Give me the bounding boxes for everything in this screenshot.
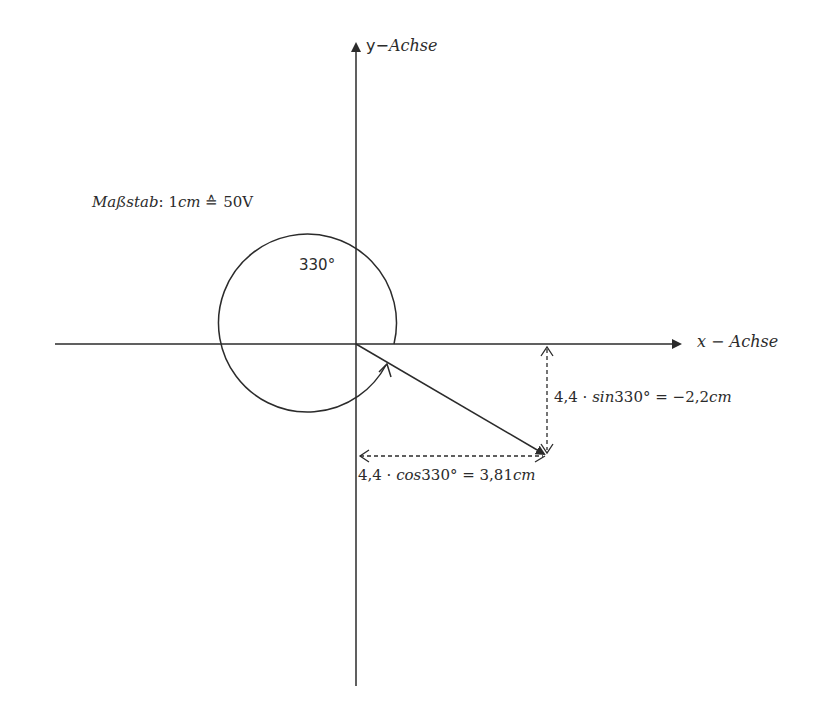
- sin-factor: 4,4 ·: [554, 388, 592, 406]
- cos-func: cos: [396, 466, 421, 484]
- x-axis-label: x − Achse: [697, 332, 778, 351]
- sin-func: sin: [592, 388, 614, 406]
- cos-arg: 330° = 3,81: [421, 466, 513, 484]
- y-axis-word: Achse: [389, 36, 438, 55]
- scale-colon: :: [159, 193, 169, 211]
- scale-unit: cm: [178, 193, 201, 211]
- sin-arg: 330° = −2,2: [614, 388, 709, 406]
- scale-label: Maßstab: 1cm ≙ 50V: [92, 193, 253, 211]
- scale-prefix: Maßstab: [92, 193, 159, 211]
- y-axis-dash: −: [375, 36, 388, 55]
- cos-component-label: 4,4 · cos330° = 3,81cm: [358, 466, 536, 484]
- cos-arrowhead-right-icon: [535, 456, 545, 462]
- x-axis-var: x: [697, 332, 706, 351]
- sin-component-label: 4,4 · sin330° = −2,2cm: [554, 388, 732, 406]
- x-axis-word: Achse: [730, 332, 779, 351]
- phasor-diagram: [0, 0, 823, 719]
- angle-label: 330°: [299, 256, 335, 274]
- scale-unit-value: 1: [168, 193, 178, 211]
- x-axis-dash: −: [706, 332, 730, 351]
- sin-unit: cm: [709, 388, 732, 406]
- phasor-vector: [356, 344, 544, 454]
- angle-arc-arrowhead-icon: [379, 364, 391, 377]
- cos-unit: cm: [513, 466, 536, 484]
- scale-value: 50V: [223, 193, 253, 211]
- cos-factor: 4,4 ·: [358, 466, 396, 484]
- scale-corresponds: ≙: [201, 193, 224, 211]
- y-axis-label: y−Achse: [366, 36, 437, 55]
